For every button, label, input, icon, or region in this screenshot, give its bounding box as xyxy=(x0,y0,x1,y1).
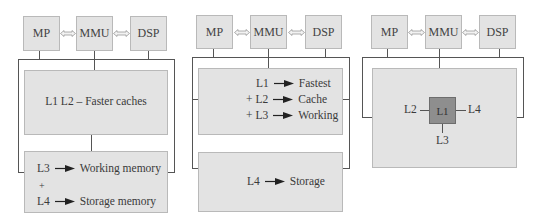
mp-label: MP xyxy=(206,25,223,40)
bidirectional-arrow-icon xyxy=(408,29,425,36)
level-label: L3 xyxy=(256,109,269,121)
bus-line-left xyxy=(362,57,363,118)
connector-line xyxy=(499,49,500,57)
right-arrow-icon xyxy=(55,162,75,174)
cache-box: L1 Fastest + L2 Cache + L3 Working xyxy=(198,68,343,135)
l1-core-box: L1 xyxy=(429,97,456,124)
connector-line xyxy=(213,49,214,57)
mmu-box: MMU xyxy=(425,15,462,49)
memory-row-l3: L3 Working memory xyxy=(37,162,161,174)
dsp-box: DSP xyxy=(479,15,516,49)
bidirectional-arrow-icon xyxy=(60,30,76,37)
mmu-label: MMU xyxy=(428,25,458,40)
memory-box: L3 Working memory + L4 Storage memory xyxy=(24,151,168,213)
plus-sign: + xyxy=(39,180,45,191)
cache-box: L1 L2 – Faster caches xyxy=(24,70,168,135)
memory-row-l4: L4 Storage memory xyxy=(37,195,156,207)
cache-row-l1: L1 Fastest xyxy=(256,77,331,89)
right-arrow-icon xyxy=(273,109,293,121)
l2-label: L2 xyxy=(404,103,417,115)
mp-box: MP xyxy=(196,15,233,49)
connector-line xyxy=(456,110,466,111)
l3-label: L3 xyxy=(436,134,449,146)
dsp-label: DSP xyxy=(137,26,159,41)
level-label: L2 xyxy=(256,93,269,105)
connector-line xyxy=(148,51,149,59)
bus-line-right xyxy=(349,57,350,169)
bidirectional-arrow-icon xyxy=(113,30,130,37)
l1-label: L1 xyxy=(436,105,448,117)
cache-label: L1 L2 – Faster caches xyxy=(25,95,167,107)
l4-label: L4 xyxy=(468,103,481,115)
right-arrow-icon xyxy=(265,175,285,187)
connector-line xyxy=(94,51,95,70)
plus-sign: + xyxy=(246,109,253,121)
bus-line xyxy=(362,57,524,58)
bus-line xyxy=(18,59,175,60)
connector-line xyxy=(39,51,40,59)
bus-line xyxy=(192,57,350,58)
bus-line xyxy=(362,117,372,118)
bus-line xyxy=(167,172,175,173)
right-arrow-icon xyxy=(55,195,75,207)
mmu-label: MMU xyxy=(79,26,109,41)
connector-line xyxy=(387,49,388,57)
bus-line xyxy=(342,168,350,169)
storage-row-l4: L4 Storage xyxy=(247,175,325,187)
level-desc: Working memory xyxy=(80,162,161,174)
mp-label: MP xyxy=(381,25,398,40)
level-desc: Working xyxy=(298,109,338,121)
bus-line-right xyxy=(174,59,175,173)
dsp-label: DSP xyxy=(486,25,508,40)
mp-box: MP xyxy=(23,16,60,51)
bus-line xyxy=(516,117,524,118)
level-desc: Storage memory xyxy=(80,195,156,207)
plus-sign: + xyxy=(246,93,253,105)
level-desc: Fastest xyxy=(299,77,331,89)
bidirectional-arrow-icon xyxy=(462,29,479,36)
connector-line xyxy=(91,135,92,151)
dsp-box: DSP xyxy=(305,15,342,49)
connector-line xyxy=(268,49,269,68)
bidirectional-arrow-icon xyxy=(234,29,250,36)
storage-box: L4 Storage xyxy=(198,152,343,212)
bus-line-left xyxy=(18,59,19,173)
connector-line xyxy=(420,110,429,111)
right-arrow-icon xyxy=(273,93,293,105)
cache-row-l2: + L2 Cache xyxy=(246,93,327,105)
bus-line xyxy=(342,99,350,100)
bidirectional-arrow-icon xyxy=(288,29,305,36)
level-label: L3 xyxy=(37,162,50,174)
mmu-box: MMU xyxy=(250,15,287,49)
right-arrow-icon xyxy=(274,77,294,89)
bus-line-right xyxy=(523,57,524,118)
mp-label: MP xyxy=(33,26,50,41)
mmu-box: MMU xyxy=(76,16,113,51)
level-label: L4 xyxy=(247,175,260,187)
level-desc: Storage xyxy=(290,175,325,187)
dsp-box: DSP xyxy=(130,16,167,51)
level-desc: Cache xyxy=(298,93,327,105)
connector-line xyxy=(325,49,326,57)
cache-row-l3: + L3 Working xyxy=(246,109,338,121)
mp-box: MP xyxy=(371,15,408,49)
connector-line xyxy=(442,124,443,133)
level-label: L1 xyxy=(256,77,269,89)
bus-line-left xyxy=(192,57,193,169)
dsp-label: DSP xyxy=(312,25,334,40)
mmu-label: MMU xyxy=(253,25,283,40)
level-label: L4 xyxy=(37,195,50,207)
